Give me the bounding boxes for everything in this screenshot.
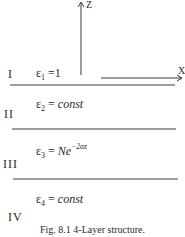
layer-2-permittivity: ε2 = const xyxy=(36,98,83,113)
layer-2-numeral: II xyxy=(4,108,14,120)
epsilon-index: 4 xyxy=(41,199,45,208)
diagram-lines xyxy=(0,0,185,237)
permittivity-value: const xyxy=(58,192,83,206)
x-axis-label: X xyxy=(178,66,185,76)
z-axis xyxy=(78,2,84,75)
equals-sign: = xyxy=(48,66,55,80)
z-axis-label: Z xyxy=(86,0,92,10)
equals-sign: = xyxy=(48,144,55,158)
layer-4-permittivity: ε4 = const xyxy=(36,193,83,208)
layer-3-numeral: III xyxy=(3,158,18,170)
permittivity-exponent: −2αz xyxy=(71,142,87,151)
x-axis xyxy=(101,75,182,81)
layer-1-numeral: I xyxy=(8,68,13,80)
permittivity-base: Ne xyxy=(58,144,71,158)
layer-3-permittivity: ε3 = Ne−2αz xyxy=(36,143,87,160)
permittivity-value: const xyxy=(58,97,83,111)
epsilon-index: 3 xyxy=(41,151,45,160)
figure-caption: Fig. 8.1 4-Layer structure. xyxy=(40,225,145,235)
layer-1-permittivity: ε1 =1 xyxy=(36,67,61,82)
equals-sign: = xyxy=(48,192,55,206)
epsilon-index: 2 xyxy=(41,104,45,113)
permittivity-value: 1 xyxy=(55,66,61,80)
epsilon-index: 1 xyxy=(41,73,45,82)
layer-4-numeral: IV xyxy=(8,211,23,223)
equals-sign: = xyxy=(48,97,55,111)
